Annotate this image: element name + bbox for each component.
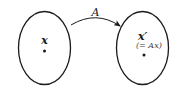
- linear-map-diagram: A x x′ (= Ax): [0, 0, 180, 95]
- point-x-dot: [43, 50, 46, 53]
- point-x-prime-dot: [143, 54, 146, 57]
- diagram-svg: A x x′ (= Ax): [0, 0, 180, 95]
- mapping-label: A: [91, 6, 100, 19]
- image-annotation: (= Ax): [136, 41, 162, 50]
- point-x-label: x: [40, 34, 48, 47]
- domain-set-ellipse: [19, 12, 71, 85]
